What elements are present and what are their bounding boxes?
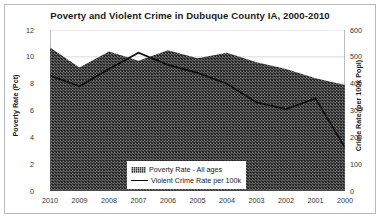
legend-label-poverty-rate: Poverty Rate - All ages	[149, 165, 222, 174]
y-axis-right-tick-500: 500	[350, 52, 376, 61]
x-axis-tick-2000: 2000	[325, 196, 365, 205]
y-axis-right-tick-300: 300	[350, 106, 376, 115]
y-axis-left-tick-0: 0	[4, 187, 34, 196]
y-axis-left-tick-10: 10	[4, 52, 34, 61]
legend-item-poverty-rate: Poverty Rate - All ages	[131, 164, 241, 175]
y-axis-right-tick-100: 100	[350, 160, 376, 169]
y-axis-left-tick-2: 2	[4, 160, 34, 169]
y-axis-left-tick-6: 6	[4, 106, 34, 115]
y-axis-right-tick-600: 600	[350, 26, 376, 35]
y-axis-left-tick-12: 12	[4, 26, 34, 35]
chart-container: Poverty and Violent Crime in Dubuque Cou…	[4, 4, 376, 214]
legend-label-violent-crime-rate: Violent Crime Rate per 100k	[151, 176, 241, 185]
y-axis-left-tick-4: 4	[4, 133, 34, 142]
y-axis-right-tick-200: 200	[350, 133, 376, 142]
line-swatch-icon	[131, 180, 148, 181]
y-axis-right-tick-0: 0	[350, 187, 376, 196]
chart-legend: Poverty Rate - All ages Violent Crime Ra…	[127, 161, 246, 189]
area-swatch-icon	[131, 167, 146, 173]
y-axis-right-tick-400: 400	[350, 79, 376, 88]
legend-item-violent-crime-rate: Violent Crime Rate per 100k	[131, 175, 241, 186]
y-axis-left-tick-8: 8	[4, 79, 34, 88]
chart-title: Poverty and Violent Crime in Dubuque Cou…	[5, 10, 375, 21]
